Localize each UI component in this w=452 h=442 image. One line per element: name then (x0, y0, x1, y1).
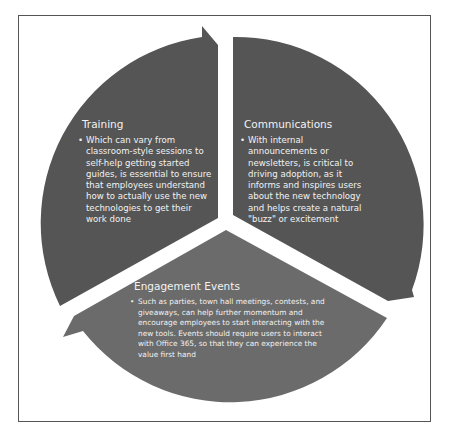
training-body: Which can vary from classroom-style sess… (86, 135, 211, 224)
engagement-events-body: Such as parties, town hall meetings, con… (138, 297, 325, 359)
cycle-diagram (0, 0, 452, 442)
communications-text: Communications •With internal announceme… (244, 118, 369, 225)
engagement-events-title: Engagement Events (134, 280, 326, 293)
training-description: •Which can vary from classroom-style ses… (82, 135, 212, 225)
communications-body: With internal announcements or newslette… (248, 135, 361, 224)
communications-title: Communications (244, 118, 369, 131)
training-text: Training •Which can vary from classroom-… (82, 118, 212, 225)
engagement-events-text: Engagement Events •Such as parties, town… (134, 280, 326, 360)
engagement-events-description: •Such as parties, town hall meetings, co… (134, 297, 326, 360)
communications-description: •With internal announcements or newslett… (244, 135, 369, 225)
training-title: Training (82, 118, 212, 131)
